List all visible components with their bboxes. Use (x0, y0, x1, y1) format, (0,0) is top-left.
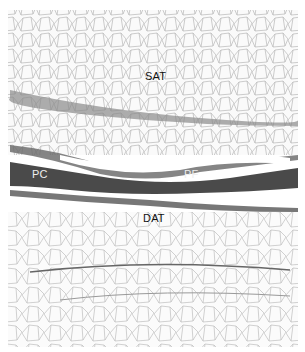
label-pc: PC (32, 168, 48, 180)
label-sat: SAT (145, 70, 166, 82)
label-dat: DAT (143, 212, 165, 224)
label-pf: PF (184, 168, 198, 180)
